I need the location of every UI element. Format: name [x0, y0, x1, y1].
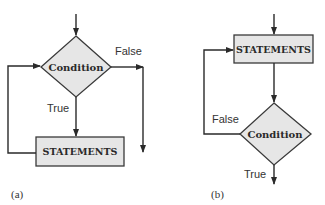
decision-node-a: Condition — [41, 36, 111, 97]
true-label-a: True — [47, 102, 69, 114]
true-label-b: True — [244, 168, 266, 180]
decision-label: Condition — [247, 129, 303, 140]
flowchart-canvas: Condition True STATEMENTS False (a) STAT… — [0, 0, 325, 205]
process-node-b: STATEMENTS — [234, 35, 313, 63]
process-label: STATEMENTS — [43, 146, 118, 157]
panel-a: Condition True STATEMENTS False (a) — [8, 14, 143, 201]
caption-a: (a) — [11, 188, 24, 201]
caption-b: (b) — [211, 188, 224, 201]
false-label-b: False — [212, 113, 239, 125]
process-node-a: STATEMENTS — [36, 137, 124, 166]
panel-b: STATEMENTS Condition False True (b) — [204, 14, 313, 201]
loop-edge-a — [8, 66, 40, 153]
decision-label: Condition — [48, 62, 104, 73]
decision-node-b: Condition — [240, 103, 311, 165]
false-label-a: False — [115, 45, 142, 57]
process-label: STATEMENTS — [236, 44, 311, 55]
